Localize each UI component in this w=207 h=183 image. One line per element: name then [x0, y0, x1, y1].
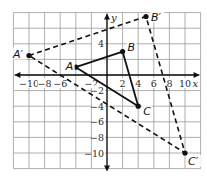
x-tick-label: 10 [179, 78, 191, 89]
x-tick-label: 4 [135, 78, 141, 89]
vertex-label: A [65, 60, 74, 73]
vertex-dot-icon [143, 14, 148, 19]
vertex-label: B [128, 41, 136, 54]
y-tick-label: 4 [98, 38, 104, 49]
vertex-dot-icon [136, 104, 141, 109]
coordinate-plane: −10−8−6−22468104−2−4−6−8−10 ABCA′B′C′ x … [0, 0, 207, 183]
vertex-dot-icon [26, 53, 31, 58]
y-tick-label: −10 [84, 148, 104, 159]
x-tick-label: −6 [53, 78, 67, 89]
vertex-dot-icon [182, 150, 187, 155]
y-axis-label: y [110, 12, 117, 23]
x-tick-label: 2 [120, 78, 126, 89]
vertex-label: A′ [12, 48, 24, 61]
vertex-label: C′ [188, 155, 199, 168]
y-tick-label: −4 [90, 101, 104, 112]
x-tick-label: 6 [151, 78, 157, 89]
vertex-dot-icon [120, 49, 125, 54]
y-axis-up-arrow-icon [104, 14, 110, 20]
x-tick-label: −10 [19, 78, 39, 89]
axes [14, 14, 199, 172]
x-tick-label: −8 [38, 78, 52, 89]
vertex-label: B′ [151, 11, 162, 24]
y-tick-label: −8 [90, 132, 104, 143]
vertex-label: C [143, 105, 151, 118]
x-axis-label: x [193, 78, 199, 89]
y-tick-label: −6 [90, 116, 104, 127]
x-tick-label: 8 [166, 78, 172, 89]
